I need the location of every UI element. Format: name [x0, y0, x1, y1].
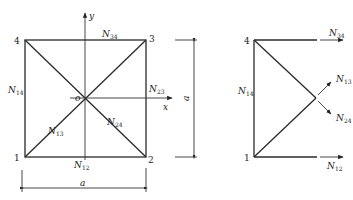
member-n12-label: N12 — [73, 160, 90, 171]
force-n13-arrow — [318, 82, 331, 95]
x-axis-label: x — [163, 102, 168, 112]
dimension-a-vertical-label: a — [181, 96, 191, 101]
member-n13-label: N13 — [47, 126, 64, 137]
origin-label: o — [75, 93, 81, 103]
right-n14-label: N14 — [237, 86, 254, 97]
member-n34-label: N34 — [101, 29, 118, 40]
truss-diagram: 4 3 1 2 o y x N34 N23 N14 N13 N24 N12 a … — [0, 0, 353, 200]
member-n24-label: N24 — [106, 117, 123, 128]
dimension-a-horizontal-label: a — [80, 178, 85, 188]
right-n34-label: N34 — [328, 28, 345, 39]
member-n14-label: N14 — [7, 85, 24, 96]
member-1-apex — [254, 98, 316, 157]
member-4-apex — [254, 40, 316, 98]
right-n13-label: N13 — [335, 74, 352, 85]
right-n12-label: N12 — [326, 161, 343, 172]
force-n24-arrow — [318, 101, 331, 114]
node-4-label: 4 — [14, 36, 20, 46]
right-free-body — [254, 40, 343, 157]
right-node-1-label: 1 — [244, 153, 250, 163]
y-axis-label: y — [88, 11, 95, 21]
node-1-label: 1 — [14, 153, 20, 163]
right-node-4-label: 4 — [244, 36, 250, 46]
right-n24-label: N24 — [335, 113, 352, 124]
node-3-label: 3 — [149, 34, 155, 44]
node-2-label: 2 — [148, 155, 154, 165]
member-n23-label: N23 — [148, 84, 165, 95]
